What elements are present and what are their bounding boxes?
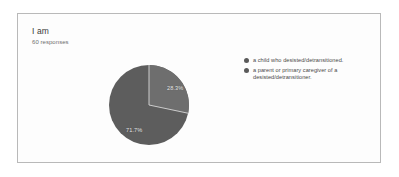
- legend-color-swatch-icon: [244, 68, 249, 73]
- pie-slice-label-0: 28.3%: [167, 85, 183, 91]
- pie-graphic: 28.3% 71.7%: [109, 65, 189, 145]
- legend-item-label: a parent or primary caregiver of a desis…: [253, 67, 372, 81]
- pie-svg: [109, 65, 189, 145]
- pie-slice-label-1: 71.7%: [126, 127, 142, 133]
- legend-item-1[interactable]: a parent or primary caregiver of a desis…: [244, 67, 372, 81]
- response-summary-card: I am 60 responses 28.3% 71.7% a child wh…: [17, 13, 381, 163]
- chart-legend: a child who desisted/detransitioned. a p…: [244, 57, 372, 84]
- legend-item-label: a child who desisted/detransitioned.: [253, 57, 343, 64]
- legend-color-swatch-icon: [244, 58, 249, 63]
- pie-chart: 28.3% 71.7% a child who desisted/detrans…: [18, 14, 382, 164]
- legend-item-0[interactable]: a child who desisted/detransitioned.: [244, 57, 372, 64]
